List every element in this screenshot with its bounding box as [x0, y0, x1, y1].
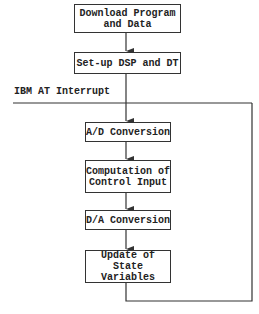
- interrupt-label: IBM AT Interrupt: [14, 86, 110, 97]
- node-download: Download Program and Data: [74, 4, 181, 33]
- node-setup: Set-up DSP and DT: [74, 52, 181, 74]
- node-update-state: Update of State Variables: [85, 250, 171, 283]
- node-ad-conversion: A/D Conversion: [85, 122, 171, 142]
- node-da-conversion: D/A Conversion: [85, 210, 171, 230]
- node-computation: Computation of Control Input: [85, 160, 171, 193]
